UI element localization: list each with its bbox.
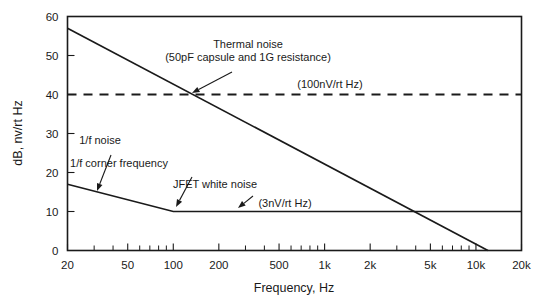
annotation-jfet-white-noise: JFET white noise (173, 178, 257, 208)
x-tick-label-200: 200 (209, 259, 228, 271)
y-axis-major-ticks (68, 56, 75, 212)
y-tick-label-10: 10 (46, 206, 59, 218)
x-tick-label-50: 50 (121, 259, 134, 271)
x-tick-label-20: 20 (61, 259, 74, 271)
x-axis-tick-labels: 20501002005001k2k5k10k20k (61, 259, 531, 271)
y-tick-label-30: 30 (46, 128, 59, 140)
y-tick-label-20: 20 (46, 167, 59, 179)
x-tick-label-20k: 20k (512, 259, 531, 271)
x-tick-label-10k: 10k (467, 259, 486, 271)
annotation-reference-3nv: (3nV/rt Hz) (258, 197, 311, 209)
annotation-text: (50pF capsule and 1G resistance) (165, 51, 331, 63)
y-axis-tick-labels: 0102030405060 (46, 11, 59, 257)
annotation-arrowhead (192, 87, 200, 93)
annotation-text: Thermal noise (213, 38, 283, 50)
annotation-text: (3nV/rt Hz) (258, 197, 311, 209)
y-tick-label-50: 50 (46, 50, 59, 62)
annotation-leader-line (199, 72, 232, 90)
annotation-reference-100nv: (100nV/rt Hz) (297, 78, 362, 90)
annotation-text: 1/f corner frequency (70, 157, 168, 169)
annotation-text: (100nV/rt Hz) (297, 78, 362, 90)
annotation-arrowhead (176, 199, 182, 207)
x-tick-label-500: 500 (269, 259, 288, 271)
chart-canvas: 20501002005001k2k5k10k20k 0102030405060 … (0, 0, 544, 308)
x-tick-label-2k: 2k (364, 259, 376, 271)
annotations-group: Thermal noise(50pF capsule and 1G resist… (70, 38, 363, 209)
y-axis-title: dB, nv/rt Hz (11, 100, 25, 165)
noise-spectrum-chart: 20501002005001k2k5k10k20k 0102030405060 … (0, 0, 544, 308)
annotation-leader-line (244, 196, 253, 203)
y-tick-label-0: 0 (52, 245, 58, 257)
annotation-text: 1/f noise (79, 134, 121, 146)
annotation-arrowhead (97, 183, 102, 191)
x-tick-label-5k: 5k (424, 259, 436, 271)
x-tick-label-100: 100 (164, 259, 183, 271)
x-axis-major-ticks (68, 244, 522, 251)
annotation-text: JFET white noise (173, 178, 257, 190)
x-axis-title: Frequency, Hz (254, 281, 334, 295)
x-tick-label-1k: 1k (319, 259, 331, 271)
y-tick-label-40: 40 (46, 89, 59, 101)
y-tick-label-60: 60 (46, 11, 59, 23)
